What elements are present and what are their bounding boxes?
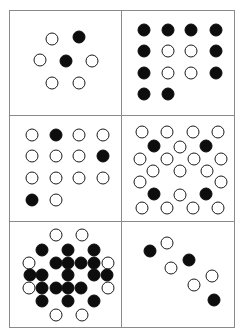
filled-dot xyxy=(161,23,174,36)
filled-dot xyxy=(144,245,157,258)
open-dot xyxy=(205,270,218,283)
open-dot xyxy=(49,149,62,162)
filled-dot xyxy=(207,293,220,306)
open-dot xyxy=(72,129,85,142)
open-dot xyxy=(49,171,62,184)
open-dot xyxy=(160,236,173,249)
open-dot xyxy=(186,202,199,215)
filled-dot xyxy=(183,253,196,266)
grid-14-dots-sparse-filled xyxy=(10,116,122,221)
filled-dot xyxy=(100,269,113,282)
open-dot xyxy=(101,282,114,295)
filled-dot xyxy=(138,44,151,57)
filled-dot xyxy=(36,282,49,295)
filled-dot xyxy=(148,139,161,152)
filled-dot xyxy=(88,244,101,257)
filled-dot xyxy=(36,244,49,257)
filled-dot xyxy=(36,294,49,307)
filled-dot xyxy=(61,269,74,282)
open-dot xyxy=(187,153,200,166)
filled-dot xyxy=(23,269,36,282)
open-dot xyxy=(97,171,110,184)
filled-dot xyxy=(49,282,62,295)
filled-dot xyxy=(200,139,213,152)
diagonal-zigzag-chain-7-dots xyxy=(122,222,234,327)
filled-dot xyxy=(49,129,62,142)
open-dot xyxy=(212,202,225,215)
filled-dot xyxy=(88,256,101,269)
open-dot xyxy=(26,129,39,142)
filled-dot xyxy=(138,23,151,36)
open-dot xyxy=(161,44,174,57)
filled-dot xyxy=(210,23,223,36)
filled-dot xyxy=(97,149,110,162)
filled-dot xyxy=(75,256,88,269)
open-dot xyxy=(26,149,39,162)
open-dot xyxy=(76,229,89,242)
filled-dot xyxy=(148,187,161,200)
open-dot xyxy=(72,171,85,184)
open-dot xyxy=(201,164,214,177)
open-dot xyxy=(97,129,110,142)
open-dot xyxy=(214,153,227,166)
filled-dot xyxy=(210,44,223,57)
open-dot xyxy=(26,171,39,184)
filled-dot xyxy=(72,31,85,44)
hexagon-7-dots xyxy=(10,11,122,116)
open-dot xyxy=(101,256,114,269)
filled-dot xyxy=(36,269,49,282)
open-dot xyxy=(174,140,187,153)
filled-dot xyxy=(61,294,74,307)
filled-dot xyxy=(161,88,174,101)
open-dot xyxy=(174,188,187,201)
open-dot xyxy=(76,309,89,322)
filled-dot xyxy=(26,193,39,206)
filled-dot xyxy=(185,23,198,36)
open-dot xyxy=(147,164,160,177)
dot-pattern-figure xyxy=(9,10,235,328)
open-dot xyxy=(160,153,173,166)
open-dot xyxy=(72,149,85,162)
hex-lattice-23-dots xyxy=(122,116,234,221)
open-dot xyxy=(22,282,35,295)
open-dot xyxy=(185,66,198,79)
filled-dot xyxy=(200,187,213,200)
open-dot xyxy=(185,44,198,57)
open-dot xyxy=(49,229,62,242)
open-dot xyxy=(187,278,200,291)
filled-dot xyxy=(88,294,101,307)
filled-dot xyxy=(61,282,74,295)
open-dot xyxy=(46,33,59,46)
open-dot xyxy=(72,76,85,89)
filled-dot xyxy=(138,88,151,101)
open-dot xyxy=(136,125,149,138)
filled-dot xyxy=(49,256,62,269)
open-dot xyxy=(133,153,146,166)
open-dot xyxy=(161,66,174,79)
filled-dot xyxy=(61,244,74,257)
filled-dot xyxy=(88,269,101,282)
open-dot xyxy=(165,262,178,275)
open-dot xyxy=(86,55,99,68)
open-dot xyxy=(33,54,46,67)
filled-dot xyxy=(138,66,151,79)
open-dot xyxy=(136,202,149,215)
open-dot xyxy=(49,193,62,206)
open-dot xyxy=(214,176,227,189)
dense-hex-cluster-filled-core xyxy=(10,222,122,327)
open-dot xyxy=(160,125,173,138)
open-dot xyxy=(49,309,62,322)
open-dot xyxy=(46,76,59,89)
square-ring-14-dots xyxy=(122,11,234,116)
filled-dot xyxy=(75,282,88,295)
open-dot xyxy=(186,125,199,138)
filled-dot xyxy=(61,256,74,269)
open-dot xyxy=(22,256,35,269)
open-dot xyxy=(174,164,187,177)
open-dot xyxy=(212,125,225,138)
filled-dot xyxy=(59,55,72,68)
open-dot xyxy=(133,176,146,189)
filled-dot xyxy=(210,66,223,79)
open-dot xyxy=(160,202,173,215)
